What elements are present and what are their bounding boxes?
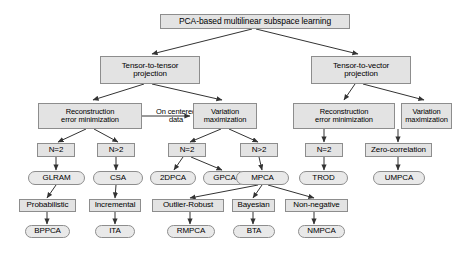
mslr-taxonomy-diagram: PCA-based multilinear subspace learning … (0, 0, 454, 258)
node-2dpca-label: 2DPCA (160, 174, 186, 182)
node-var2-line2: maximization (405, 116, 448, 124)
node-variation-maximization-ttp[interactable]: Variation maximization (193, 103, 257, 129)
node-probabilistic-label: Probabilistic (27, 201, 69, 209)
node-rmpca[interactable]: RMPCA (167, 225, 215, 238)
node-n-eq-2-a-label: N=2 (49, 146, 64, 154)
node-recon2-line2: error minimization (315, 116, 373, 124)
node-tensor-to-vector-projection[interactable]: Tensor-to-vector projection (311, 56, 411, 84)
node-csa-label: CSA (110, 174, 126, 182)
edge-layer (0, 0, 454, 258)
node-n-equals-2-trod[interactable]: N=2 (305, 143, 343, 157)
node-recon1-line2: error minimization (61, 116, 119, 124)
node-nmpca-label: NMPCA (307, 227, 335, 235)
node-incremental[interactable]: Incremental (89, 199, 141, 212)
node-bayesian[interactable]: Bayesian (232, 199, 275, 212)
node-trod[interactable]: TROD (299, 171, 348, 185)
node-ita-label: ITA (109, 227, 121, 235)
node-n-gt-2-b-label: N>2 (252, 146, 267, 154)
node-tensor-to-tensor-projection[interactable]: Tensor-to-tensor projection (100, 56, 200, 84)
node-bppca[interactable]: BPPCA (25, 225, 70, 238)
node-trod-label: TROD (312, 174, 334, 182)
node-n-equals-2-glram[interactable]: N=2 (37, 143, 75, 157)
node-zero-correlation-label: Zero-correlation (371, 146, 426, 154)
node-variation-maximization-tvp[interactable]: Variation maximization (401, 103, 452, 129)
node-rmpca-label: RMPCA (177, 227, 205, 235)
node-n-eq-2-b-label: N=2 (180, 146, 195, 154)
node-mpca-label: MPCA (251, 174, 274, 182)
node-bppca-label: BPPCA (34, 227, 61, 235)
node-n-eq-2-c-label: N=2 (317, 146, 332, 154)
node-reconstruction-error-minimization-tvp[interactable]: Reconstruction error minimization (293, 103, 395, 129)
node-bayesian-label: Bayesian (237, 201, 269, 209)
node-incremental-label: Incremental (95, 201, 136, 209)
node-bta-label: BTA (247, 227, 262, 235)
node-n-greater-2-mpca[interactable]: N>2 (240, 143, 278, 157)
node-umpca-label: UMPCA (385, 174, 413, 182)
node-outlier-robust-label: Outlier-Robust (163, 201, 213, 209)
node-root[interactable]: PCA-based multilinear subspace learning (160, 14, 350, 29)
node-n-equals-2-2dpca-gpca[interactable]: N=2 (168, 143, 206, 157)
node-glram[interactable]: GLRAM (28, 171, 85, 185)
node-var1-line2: maximization (204, 116, 247, 124)
node-reconstruction-error-minimization-ttp[interactable]: Reconstruction error minimization (38, 103, 142, 129)
node-n-greater-2-csa[interactable]: N>2 (97, 143, 135, 157)
node-gpca-label: GPCA (213, 174, 235, 182)
node-non-negative-label: Non-negative (293, 201, 339, 209)
node-zero-correlation[interactable]: Zero-correlation (365, 143, 432, 157)
node-bta[interactable]: BTA (233, 225, 275, 238)
node-root-label: PCA-based multilinear subspace learning (179, 17, 331, 26)
label-on-centered-line2: data (169, 116, 183, 124)
node-ita[interactable]: ITA (95, 225, 135, 238)
node-csa[interactable]: CSA (93, 171, 143, 185)
node-2dpca[interactable]: 2DPCA (150, 171, 196, 185)
node-tensor-to-tensor-line2: projection (133, 70, 167, 78)
node-tensor-to-vector-line2: projection (344, 70, 378, 78)
node-glram-label: GLRAM (43, 174, 71, 182)
node-n-gt-2-a-label: N>2 (109, 146, 124, 154)
node-probabilistic[interactable]: Probabilistic (19, 199, 76, 212)
node-non-negative[interactable]: Non-negative (285, 199, 348, 212)
node-outlier-robust[interactable]: Outlier-Robust (152, 199, 224, 212)
node-mpca[interactable]: MPCA (236, 171, 289, 185)
node-umpca[interactable]: UMPCA (373, 171, 425, 185)
node-nmpca[interactable]: NMPCA (298, 225, 345, 238)
